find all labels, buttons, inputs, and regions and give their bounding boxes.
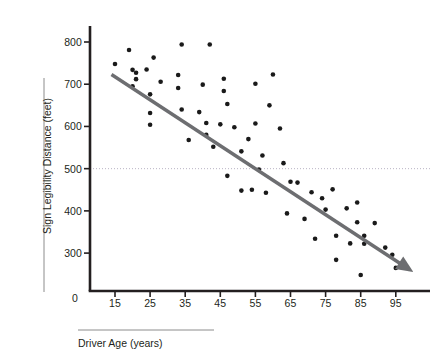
data-point bbox=[225, 174, 230, 179]
data-point bbox=[285, 211, 290, 216]
data-point bbox=[344, 206, 349, 211]
data-point bbox=[355, 200, 360, 205]
data-point bbox=[267, 103, 272, 108]
data-point bbox=[225, 102, 230, 107]
data-point bbox=[253, 121, 258, 126]
data-point bbox=[158, 79, 163, 84]
y-tick-label: 600 bbox=[52, 120, 82, 132]
data-point bbox=[260, 153, 265, 158]
data-point bbox=[148, 92, 153, 97]
data-point bbox=[334, 258, 339, 263]
x-tick-label: 55 bbox=[249, 297, 261, 309]
x-tick-label: 45 bbox=[214, 297, 226, 309]
data-point bbox=[288, 179, 293, 184]
data-point bbox=[250, 187, 255, 192]
data-point bbox=[179, 42, 184, 47]
data-point bbox=[246, 137, 251, 142]
data-point bbox=[264, 190, 269, 195]
data-point bbox=[151, 55, 156, 60]
data-point bbox=[113, 62, 118, 67]
y-tick-label: 400 bbox=[52, 205, 82, 217]
data-point bbox=[134, 71, 139, 76]
data-point bbox=[232, 125, 237, 130]
scatter-chart: Sign Legibility Distance (feet) Driver A… bbox=[0, 0, 436, 364]
data-point bbox=[372, 221, 377, 226]
data-point bbox=[200, 82, 205, 87]
data-point bbox=[313, 236, 318, 241]
data-point bbox=[239, 149, 244, 154]
data-point bbox=[176, 73, 181, 78]
data-point bbox=[218, 122, 223, 127]
x-tick-label: 25 bbox=[144, 297, 156, 309]
y-tick-label: 300 bbox=[52, 247, 82, 259]
data-point bbox=[253, 82, 258, 87]
data-point bbox=[323, 207, 328, 212]
data-point bbox=[271, 72, 276, 77]
data-point bbox=[144, 67, 149, 72]
data-point bbox=[348, 241, 353, 246]
y-tick-label: 700 bbox=[52, 78, 82, 90]
y-tick-label: 500 bbox=[52, 163, 82, 175]
data-point bbox=[334, 233, 339, 238]
x-axis-title: Driver Age (years) bbox=[78, 337, 163, 349]
origin-zero-label: 0 bbox=[72, 292, 78, 304]
data-points bbox=[113, 42, 405, 277]
data-point bbox=[355, 220, 360, 225]
regression-trend-line bbox=[111, 75, 413, 273]
x-tick-label: 15 bbox=[109, 297, 121, 309]
data-point bbox=[320, 196, 325, 201]
axis-ticks bbox=[84, 42, 396, 297]
x-tick-label: 95 bbox=[390, 297, 402, 309]
plot-area bbox=[0, 0, 436, 364]
x-tick-label: 65 bbox=[285, 297, 297, 309]
data-point bbox=[211, 144, 216, 149]
data-point bbox=[302, 217, 307, 222]
data-point bbox=[383, 245, 388, 250]
y-tick-label: 800 bbox=[52, 36, 82, 48]
data-point bbox=[127, 48, 132, 53]
data-point bbox=[148, 122, 153, 127]
data-point bbox=[239, 188, 244, 193]
data-point bbox=[330, 187, 335, 192]
data-point bbox=[204, 121, 209, 126]
data-point bbox=[207, 42, 212, 47]
data-point bbox=[222, 89, 227, 94]
data-point bbox=[358, 273, 363, 278]
x-tick-label: 75 bbox=[320, 297, 332, 309]
data-point bbox=[179, 107, 184, 112]
data-point bbox=[134, 77, 139, 82]
y-axis-title-wrapper: Sign Legibility Distance (feet) bbox=[22, 78, 38, 292]
data-point bbox=[176, 86, 181, 91]
data-point bbox=[130, 68, 135, 73]
data-point bbox=[222, 76, 227, 81]
data-point bbox=[278, 126, 283, 131]
x-tick-label: 85 bbox=[355, 297, 367, 309]
data-point bbox=[186, 138, 191, 143]
x-tick-label: 35 bbox=[179, 297, 191, 309]
data-point bbox=[148, 111, 153, 116]
data-point bbox=[295, 180, 300, 185]
data-point bbox=[197, 110, 202, 115]
data-point bbox=[309, 190, 314, 195]
data-point bbox=[281, 161, 286, 166]
